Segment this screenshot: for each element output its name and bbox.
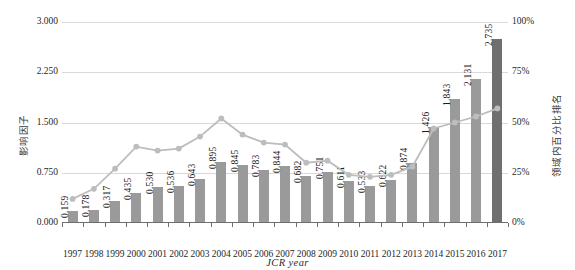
bar [407, 163, 417, 222]
x-axis-tickmark [508, 223, 509, 227]
bar-value-label: 0.536 [166, 171, 176, 193]
x-axis-tickmark [296, 223, 297, 227]
bar [259, 170, 269, 223]
x-axis-tickmark [359, 223, 360, 227]
line-marker [325, 158, 331, 164]
bar [301, 176, 311, 222]
bar-value-label: 2.131 [463, 64, 473, 86]
line-marker [133, 144, 139, 150]
y-axis-left-tick-label: 0.750 [37, 167, 58, 177]
bar-value-label: 0.682 [293, 161, 303, 183]
x-axis-tickmark [317, 223, 318, 227]
bar [471, 79, 481, 222]
x-axis-tickmark [487, 223, 488, 227]
bar-value-label: 2.735 [484, 23, 494, 45]
gridline [62, 72, 508, 73]
line-marker [155, 148, 161, 154]
x-axis-tickmark [62, 223, 63, 227]
y-axis-left-tick-label: 2.250 [37, 66, 58, 76]
bar-value-label: 0.783 [251, 154, 261, 176]
bar-value-label: 0.530 [145, 171, 155, 193]
x-axis-tickmark [83, 223, 84, 227]
x-axis-tickmark [274, 223, 275, 227]
line-marker [70, 196, 76, 202]
x-axis-tickmark [105, 223, 106, 227]
x-axis-tickmark [466, 223, 467, 227]
bar-value-label: 0.844 [272, 150, 282, 172]
y-axis-right-tick-label: 0% [512, 217, 525, 227]
x-axis-tickmark [253, 223, 254, 227]
y-axis-right-tick-label: 100% [512, 16, 534, 26]
bar-value-label: 1.426 [421, 111, 431, 133]
bar [450, 99, 460, 223]
x-axis-tickmark [232, 223, 233, 227]
line-marker [176, 146, 182, 152]
bar-value-label: 0.611 [336, 166, 346, 188]
x-axis-tickmark [423, 223, 424, 227]
bar [238, 165, 248, 222]
bar-value-label: 0.751 [315, 156, 325, 178]
line-marker [282, 142, 288, 148]
y-axis-right-tick-label: 50% [512, 117, 529, 127]
x-axis-tickmark [338, 223, 339, 227]
y-axis-right-tick-label: 25% [512, 167, 529, 177]
x-axis-tickmark [402, 223, 403, 227]
bar-value-label: 0.874 [399, 148, 409, 170]
x-axis-tickmark [444, 223, 445, 227]
line-marker [261, 140, 267, 146]
bar [216, 162, 226, 222]
bar-value-label: 0.178 [81, 195, 91, 217]
x-axis-tickmark [211, 223, 212, 227]
line-marker [197, 134, 203, 140]
y-axis-left-tick-label: 0.000 [37, 217, 58, 227]
bar-value-label: 0.622 [378, 165, 388, 187]
bar-value-label: 0.533 [357, 171, 367, 193]
bar-value-label: 1.843 [442, 83, 452, 105]
bar [280, 166, 290, 223]
y-axis-right-tick-label: 75% [512, 66, 529, 76]
bar-value-label: 0.159 [60, 196, 70, 218]
x-axis-tickmark [381, 223, 382, 227]
gridline [62, 123, 508, 124]
bar-value-label: 0.845 [230, 150, 240, 172]
gridline [62, 22, 508, 23]
line-marker [240, 132, 246, 138]
line-marker [112, 166, 118, 172]
x-axis-tickmark [168, 223, 169, 227]
bar-value-label: 0.643 [187, 164, 197, 186]
x-axis-line [62, 222, 508, 223]
x-axis-tickmark [147, 223, 148, 227]
bar-value-label: 0.435 [123, 178, 133, 200]
line-marker [303, 160, 309, 166]
plot-area: 0.1590.1780.3170.4350.5300.5360.6430.895… [62, 22, 508, 223]
line-marker [367, 174, 373, 180]
y-axis-right-title: 领域内百分比排名 [549, 93, 563, 177]
y-axis-left-tick-label: 3.000 [37, 16, 58, 26]
bar [492, 39, 502, 222]
y-axis-right-ticks: 0%25%50%75%100% [512, 0, 546, 270]
bar-value-label: 0.317 [102, 185, 112, 207]
y-axis-left-ticks: 0.0000.7501.5002.2503.000 [20, 0, 58, 270]
y-axis-left-tick-label: 1.500 [37, 117, 58, 127]
bar [323, 172, 333, 222]
x-axis-tickmark [189, 223, 190, 227]
x-axis-tickmark [126, 223, 127, 227]
line-marker [91, 186, 97, 192]
bar [429, 127, 439, 223]
x-axis-tick-label: 2017 [480, 249, 514, 259]
chart-container: 影响因子 领域内百分比排名 JCR year 0.0000.7501.5002.… [0, 0, 575, 270]
bar-value-label: 0.895 [208, 147, 218, 169]
line-marker [218, 116, 224, 122]
